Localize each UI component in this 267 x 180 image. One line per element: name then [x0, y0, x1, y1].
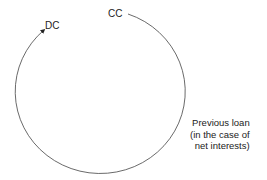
annotation-previous-loan: Previous loan (in the case of net intere… — [190, 117, 250, 152]
node-dc: DC — [45, 20, 59, 31]
node-cc: CC — [108, 8, 122, 19]
cycle-arc — [15, 14, 185, 173]
annotation-line-3: net interests) — [190, 140, 250, 152]
annotation-line-1: Previous loan — [190, 117, 250, 129]
annotation-line-2: (in the case of — [190, 129, 250, 141]
cycle-diagram — [0, 0, 267, 180]
